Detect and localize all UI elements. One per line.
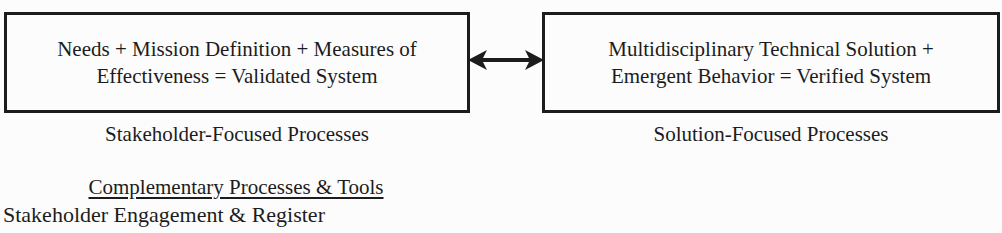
diagram-canvas: Needs + Mission Definition + Measures of… [0, 0, 1002, 233]
complementary-item-stakeholder-engagement: Stakeholder Engagement & Register [3, 201, 325, 228]
solution-box-line-1: Multidisciplinary Technical Solution + [608, 36, 934, 63]
complementary-heading: Complementary Processes & Tools [0, 174, 472, 200]
stakeholder-box-text: Needs + Mission Definition + Measures of… [57, 36, 417, 90]
solution-box-caption: Solution-Focused Processes [542, 121, 1000, 148]
stakeholder-box-line-2: Effectiveness = Validated System [57, 63, 417, 90]
stakeholder-processes-box: Needs + Mission Definition + Measures of… [4, 12, 470, 113]
solution-box-text: Multidisciplinary Technical Solution + E… [608, 36, 934, 90]
solution-processes-box: Multidisciplinary Technical Solution + E… [542, 12, 1000, 113]
solution-box-line-2: Emergent Behavior = Verified System [608, 63, 934, 90]
stakeholder-box-line-1: Needs + Mission Definition + Measures of [57, 36, 417, 63]
double-arrow-icon [467, 45, 545, 75]
complementary-heading-text: Complementary Processes & Tools [88, 175, 383, 199]
stakeholder-box-caption: Stakeholder-Focused Processes [4, 121, 470, 148]
